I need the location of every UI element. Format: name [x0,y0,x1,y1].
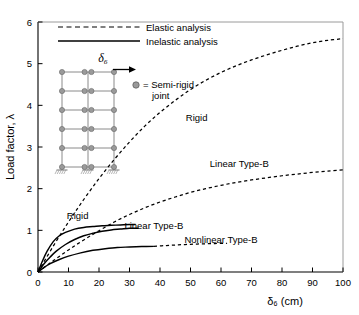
semi-rigid-joint [82,145,87,150]
curve-annotation: Nonlinear Type-B [184,234,257,245]
semi-rigid-joint [89,164,94,169]
semi-rigid-joint [59,107,64,112]
semi-rigid-joint [89,145,94,150]
joint-legend-line2: joint [151,90,170,101]
curve-annotation: Linear Type-B [124,220,183,231]
semi-rigid-joint [59,69,64,74]
y-tick-label: 2 [27,183,32,194]
semi-rigid-joint [82,107,87,112]
y-tick-label: 6 [27,17,32,28]
semi-rigid-joint [82,126,87,131]
displacement-label: δ₆ [98,51,108,65]
semi-rigid-joint [59,164,64,169]
y-tick-label: 4 [27,100,32,111]
semi-rigid-joint [89,107,94,112]
legend-label-inelastic: Inelastic analysis [146,36,218,47]
x-tick-label: 40 [155,277,166,288]
semi-rigid-joint [111,88,116,93]
x-tick-label: 100 [335,277,351,288]
x-tick-label: 70 [246,277,257,288]
x-tick-label: 90 [307,277,318,288]
curve-annotation: Linear Type-B [210,158,269,169]
x-tick-label: 50 [185,277,196,288]
y-tick-label: 1 [27,225,32,236]
load-factor-vs-displacement-chart: 0102030405060708090100 0123456 Elastic a… [0,0,359,315]
x-tick-label: 0 [35,277,40,288]
semi-rigid-joint [111,164,116,169]
semi-rigid-joint [89,126,94,131]
semi-rigid-joint-icon [133,82,139,88]
chart-background [0,0,359,315]
semi-rigid-joint [82,88,87,93]
semi-rigid-joint [111,126,116,131]
semi-rigid-joint [89,88,94,93]
semi-rigid-joint [82,164,87,169]
curve-annotation: Rigid [186,112,208,123]
y-tick-label: 3 [27,142,32,153]
y-tick-label: 5 [27,58,32,69]
x-tick-label: 80 [277,277,288,288]
y-axis-title: Load factor, λ [4,113,16,180]
x-tick-label: 60 [216,277,227,288]
joint-legend-line1: = Semi-rigid [143,79,194,90]
semi-rigid-joint [111,107,116,112]
semi-rigid-joint [59,126,64,131]
semi-rigid-joint [89,69,94,74]
y-tick-label: 0 [27,267,32,278]
x-tick-label: 10 [63,277,74,288]
x-tick-label: 30 [124,277,135,288]
x-tick-label: 20 [94,277,105,288]
semi-rigid-joint [111,69,116,74]
semi-rigid-joint [111,145,116,150]
chart-figure: 0102030405060708090100 0123456 Elastic a… [0,0,359,315]
legend-label-elastic: Elastic analysis [146,22,211,33]
semi-rigid-joint [59,88,64,93]
x-axis-title: δ₆ (cm) [267,295,303,307]
semi-rigid-joint [82,69,87,74]
curve-annotation: Rigid [67,210,89,221]
semi-rigid-joint [59,145,64,150]
